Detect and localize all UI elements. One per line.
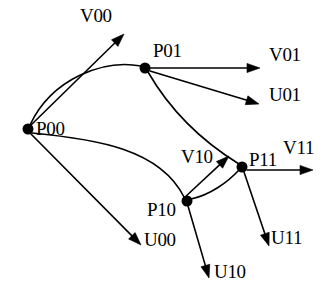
vector-label-v00: V00	[80, 6, 112, 25]
vector-label-u01: U01	[269, 85, 301, 104]
U00-arrow-shaft	[31, 134, 134, 238]
V10-arrow-shaft	[184, 163, 222, 198]
diagram-canvas: P00P01P10P11V00V01U01V10V11U00U10U11	[0, 0, 331, 297]
node-label-p10: P10	[147, 200, 176, 219]
U11-arrow	[244, 172, 269, 246]
U01-arrow-head	[245, 96, 259, 105]
node-label-p11: P11	[249, 150, 277, 169]
V01-arrow-head	[247, 63, 260, 72]
U10-arrow-head	[201, 264, 210, 278]
U11-arrow-head	[260, 232, 269, 246]
U00-arrow	[31, 134, 141, 245]
vector-label-u00: U00	[144, 230, 176, 249]
node-p00	[23, 124, 34, 135]
node-label-p00: P00	[36, 119, 65, 138]
node-label-p01: P01	[153, 41, 182, 60]
vector-label-u10: U10	[214, 262, 246, 281]
V11-arrow-head	[300, 165, 313, 174]
node-p10	[182, 196, 193, 207]
vector-label-v11: V11	[283, 138, 314, 157]
P00-P10-curve	[32, 133, 184, 197]
P00-P01-curve	[30, 65, 141, 125]
vector-label-u11: U11	[271, 228, 302, 247]
U11-arrow-shaft	[244, 172, 266, 237]
vector-label-v10: V10	[181, 147, 213, 166]
V00-arrow-shaft	[30, 41, 117, 126]
V01-arrow	[150, 63, 260, 72]
U10-arrow	[188, 206, 210, 278]
vector-label-v01: V01	[269, 45, 301, 64]
U10-arrow-shaft	[188, 206, 206, 268]
node-p01	[140, 63, 151, 74]
V00-arrow	[30, 34, 124, 126]
node-p11	[237, 162, 248, 173]
